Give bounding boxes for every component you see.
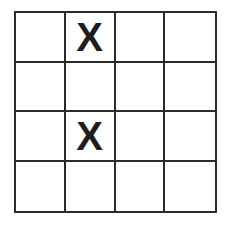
cell-2-2[interactable]: [116, 112, 166, 162]
cell-3-0[interactable]: [16, 162, 66, 212]
cell-1-0[interactable]: [16, 63, 66, 113]
cell-0-0[interactable]: [16, 13, 66, 63]
cell-1-1[interactable]: [66, 63, 116, 113]
cell-2-0[interactable]: [16, 112, 66, 162]
cell-0-1[interactable]: X: [66, 13, 116, 63]
cell-1-2[interactable]: [116, 63, 166, 113]
cell-3-1[interactable]: [66, 162, 116, 212]
cell-0-3[interactable]: [165, 13, 215, 63]
cell-2-3[interactable]: [165, 112, 215, 162]
cell-2-1[interactable]: X: [66, 112, 116, 162]
cell-0-2[interactable]: [116, 13, 166, 63]
cell-1-3[interactable]: [165, 63, 215, 113]
cell-3-3[interactable]: [165, 162, 215, 212]
cell-3-2[interactable]: [116, 162, 166, 212]
game-board: X X: [14, 11, 217, 213]
